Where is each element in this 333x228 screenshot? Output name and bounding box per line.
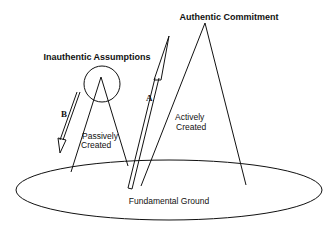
authentic-commitment-label: Authentic Commitment	[180, 12, 279, 22]
arrow-b-label: B	[61, 109, 67, 119]
arrow-b-icon	[58, 92, 80, 153]
passively-created-triangle	[71, 77, 128, 172]
passively-label-line2: Created	[81, 140, 112, 150]
arrow-a-label: A	[146, 93, 153, 103]
actively-label-line2: Created	[176, 122, 207, 132]
actively-label-line1: Actively	[175, 112, 205, 122]
inauthentic-assumptions-label: Inauthentic Assumptions	[43, 52, 150, 62]
diagram-canvas: Authentic Commitment Inauthentic Assumpt…	[0, 0, 333, 228]
fundamental-ground-label: Fundamental Ground	[129, 196, 210, 206]
inauthentic-assumptions-circle	[84, 66, 120, 102]
fundamental-ground-ellipse	[16, 160, 322, 220]
authentic-commitment-triangle	[141, 23, 246, 186]
